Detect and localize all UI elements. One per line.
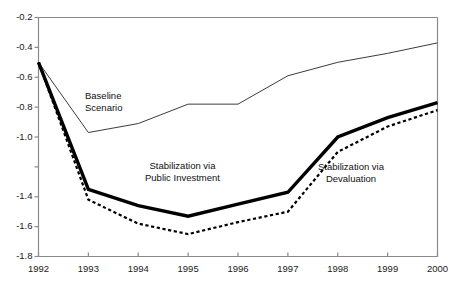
series-line-2	[39, 62, 438, 234]
series-annotation-line1: Stabilization via	[318, 161, 384, 173]
x-tick-label: 1994	[118, 263, 158, 274]
x-tick-label: 1993	[68, 263, 108, 274]
series-annotation-line1: Baseline	[85, 90, 123, 102]
series-annotation: BaselineScenario	[85, 90, 123, 113]
x-tick-label: 2000	[418, 263, 453, 274]
series-annotation-line2: Public Investment	[145, 172, 220, 184]
series-annotation-line2: Scenario	[85, 102, 123, 114]
series-annotation: Stabilization viaDevaluation	[318, 161, 384, 184]
x-tick-label: 1997	[268, 263, 308, 274]
y-tick-label: -0.2	[1, 11, 33, 22]
series-line-1	[39, 62, 438, 216]
series-annotation-line1: Stabilization via	[145, 160, 220, 172]
x-tick-label: 1998	[318, 263, 358, 274]
y-tick-label: -1.0	[1, 131, 33, 142]
x-tick-label: 1995	[168, 263, 208, 274]
y-tick-label: -1.4	[1, 190, 33, 201]
series-annotation: Stabilization viaPublic Investment	[145, 160, 220, 183]
y-tick-label: -1.8	[1, 250, 33, 261]
series-annotation-line2: Devaluation	[318, 173, 384, 185]
y-tick-label: -0.8	[1, 101, 33, 112]
y-tick-label: -0.6	[1, 71, 33, 82]
y-tick-label: -0.4	[1, 41, 33, 52]
x-tick-label: 1996	[218, 263, 258, 274]
y-tick-label: -1.6	[1, 220, 33, 231]
x-tick-label: 1999	[368, 263, 408, 274]
x-tick-label: 1992	[19, 263, 59, 274]
series-line-0	[39, 43, 438, 133]
